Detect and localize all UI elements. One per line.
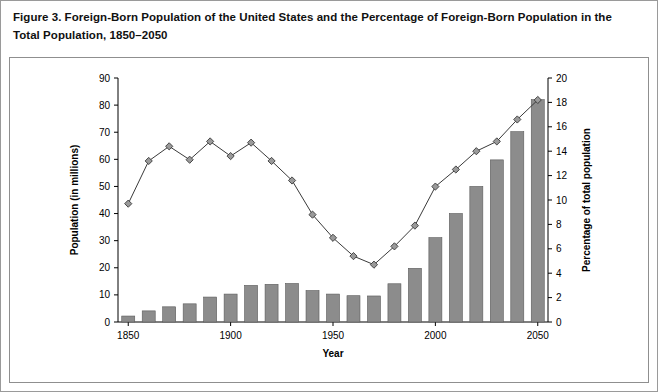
x-tick-label: 1900: [219, 330, 242, 341]
y2-tick-label: 18: [556, 97, 568, 108]
y2-tick-label: 8: [556, 219, 562, 230]
x-tick-label: 2000: [424, 330, 447, 341]
y-axis-title: Population (in millions): [69, 145, 80, 256]
bar: [470, 186, 483, 322]
bar: [204, 297, 217, 322]
y2-tick-label: 2: [556, 292, 562, 303]
figure-container: Figure 3. Foreign-Born Population of the…: [0, 0, 658, 392]
bar: [429, 238, 442, 322]
bar: [408, 268, 421, 322]
bar: [327, 294, 340, 322]
y-tick-label: 30: [99, 235, 111, 246]
y2-tick-label: 10: [556, 195, 568, 206]
bar: [367, 296, 380, 322]
chart-svg: 0102030405060708090024681012141618201850…: [10, 58, 648, 382]
x-tick-label: 1950: [322, 330, 345, 341]
bar: [531, 100, 544, 322]
line-marker: [125, 200, 132, 207]
y-tick-label: 80: [99, 100, 111, 111]
y2-tick-label: 16: [556, 121, 568, 132]
figure-title: Figure 3. Foreign-Born Population of the…: [13, 9, 633, 45]
chart-plot-area: 0102030405060708090024681012141618201850…: [10, 58, 648, 382]
y2-tick-label: 12: [556, 170, 568, 181]
y-tick-label: 0: [104, 317, 110, 328]
y2-tick-label: 6: [556, 243, 562, 254]
y2-tick-label: 20: [556, 73, 568, 84]
line-marker: [145, 157, 152, 164]
chart-frame: 0102030405060708090024681012141618201850…: [9, 57, 649, 383]
bar: [449, 214, 462, 322]
line-marker: [166, 143, 173, 150]
bar: [265, 284, 278, 322]
y-tick-label: 70: [99, 127, 111, 138]
y-tick-label: 50: [99, 181, 111, 192]
x-tick-label: 1850: [117, 330, 140, 341]
bar: [306, 291, 319, 322]
bar: [224, 294, 237, 322]
bar: [286, 284, 299, 322]
y-tick-label: 90: [99, 73, 111, 84]
line-marker: [227, 152, 234, 159]
bar: [245, 285, 258, 322]
bar: [490, 160, 503, 322]
bar: [388, 284, 401, 322]
x-axis-title: Year: [322, 348, 343, 359]
bar: [347, 296, 360, 322]
y2-tick-label: 4: [556, 268, 562, 279]
y-tick-label: 40: [99, 208, 111, 219]
bar: [511, 132, 524, 322]
y-tick-label: 10: [99, 289, 111, 300]
y-tick-label: 20: [99, 262, 111, 273]
y2-tick-label: 14: [556, 146, 568, 157]
bar: [163, 307, 176, 322]
bar: [122, 316, 135, 322]
x-tick-label: 2050: [527, 330, 550, 341]
y2-tick-label: 0: [556, 317, 562, 328]
axis-lines: [118, 78, 548, 322]
bar: [142, 311, 155, 322]
y-tick-label: 60: [99, 154, 111, 165]
bar: [183, 304, 196, 322]
y2-axis-title: Percentage of total population: [581, 128, 592, 272]
